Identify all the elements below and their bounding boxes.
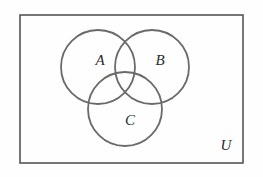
set-circle-b xyxy=(115,30,189,104)
set-label-b: B xyxy=(155,52,164,68)
set-label-c: C xyxy=(125,112,136,128)
set-label-a: A xyxy=(94,52,105,68)
venn-diagram-figure: A B C U xyxy=(0,0,263,177)
set-circle-c xyxy=(88,72,162,146)
venn-diagram-canvas: A B C U xyxy=(0,0,263,177)
universe-label: U xyxy=(221,137,233,153)
